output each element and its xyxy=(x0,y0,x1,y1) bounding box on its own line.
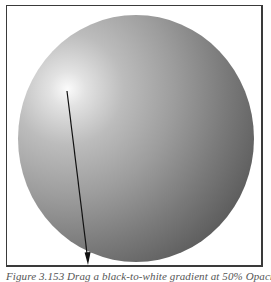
gradient-arrow-icon xyxy=(0,0,271,282)
figure-caption: Figure 3.153 Drag a black-to-white gradi… xyxy=(6,270,271,282)
